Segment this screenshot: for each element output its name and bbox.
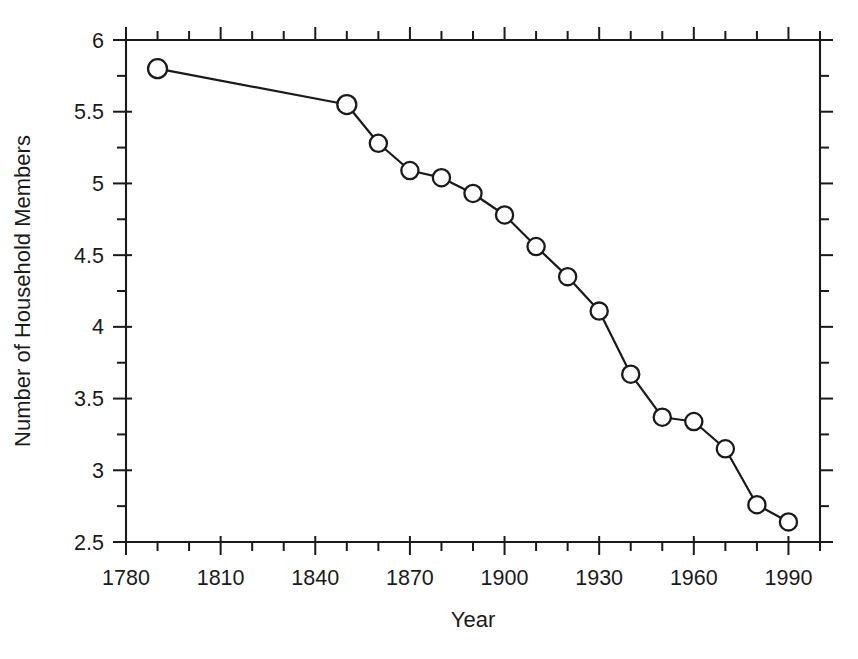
data-point-marker — [370, 135, 387, 152]
axis-frame — [126, 40, 820, 542]
data-point-marker — [337, 95, 356, 114]
y-tick-label: 4 — [92, 315, 104, 339]
line-chart: 2.533.544.555.56 17801810184018701900193… — [0, 0, 858, 659]
x-tick-label: 1900 — [481, 566, 529, 590]
y-tick-label: 6 — [92, 29, 104, 53]
data-point-marker — [591, 302, 608, 319]
series-line-household-members — [158, 69, 789, 522]
x-axis-tick-labels: 17801810184018701900193019601990 — [102, 566, 812, 590]
series-markers — [148, 59, 797, 530]
data-point-marker — [559, 268, 576, 285]
data-point-marker — [685, 413, 702, 430]
data-point-marker — [622, 366, 639, 383]
data-point-marker — [748, 496, 765, 513]
data-point-marker — [654, 409, 671, 426]
y-tick-label: 3 — [92, 459, 104, 483]
data-point-marker — [496, 206, 513, 223]
y-tick-label: 5 — [92, 172, 104, 196]
y-axis-title: Number of Household Members — [10, 135, 35, 447]
x-tick-label: 1990 — [765, 566, 813, 590]
data-point-marker — [401, 162, 418, 179]
y-tick-label: 4.5 — [74, 244, 104, 268]
data-point-marker — [148, 59, 167, 78]
data-point-marker — [717, 440, 734, 457]
x-tick-label: 1810 — [197, 566, 245, 590]
x-tick-label: 1930 — [575, 566, 623, 590]
y-axis-ticks — [113, 40, 833, 542]
data-point-marker — [464, 185, 481, 202]
y-axis-tick-labels: 2.533.544.555.56 — [74, 29, 104, 555]
x-tick-label: 1840 — [291, 566, 339, 590]
x-axis-title: Year — [451, 607, 495, 632]
x-tick-label: 1780 — [102, 566, 150, 590]
x-tick-label: 1960 — [670, 566, 718, 590]
x-axis-ticks — [126, 27, 820, 555]
x-tick-label: 1870 — [386, 566, 434, 590]
y-tick-label: 2.5 — [74, 531, 104, 555]
y-tick-label: 5.5 — [74, 100, 104, 124]
data-point-marker — [527, 238, 544, 255]
chart-figure: 2.533.544.555.56 17801810184018701900193… — [0, 0, 858, 659]
data-point-marker — [433, 169, 450, 186]
y-tick-label: 3.5 — [74, 387, 104, 411]
data-point-marker — [780, 513, 797, 530]
